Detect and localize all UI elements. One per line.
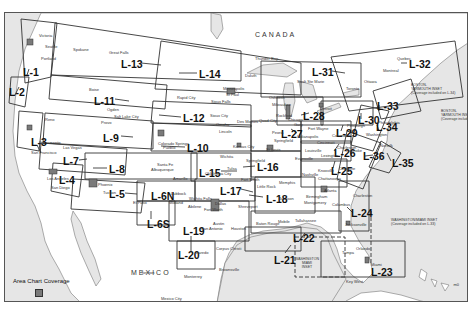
city-label: Mexico City — [161, 297, 182, 301]
city-label: Brownsville — [219, 268, 239, 272]
chart-label-l-33[interactable]: L-33 — [377, 101, 399, 112]
city-label: Peoria — [272, 131, 284, 135]
city-label: Lexington — [321, 154, 338, 158]
city-label: Oshkosh — [269, 96, 285, 100]
city-label: Montreal — [383, 69, 399, 73]
chart-label-l-7[interactable]: L-7 — [63, 156, 79, 167]
city-label: Little Rock — [257, 185, 276, 189]
chart-label-l-9[interactable]: L-9 — [103, 133, 119, 144]
city-label: Wichita — [220, 155, 233, 159]
city-label: Nashville — [302, 173, 318, 177]
city-label: Sioux City — [210, 114, 228, 118]
area-chart-sanfrancisco — [27, 125, 32, 130]
legend-area-chart-swatch — [35, 289, 43, 297]
boston-yarmouth-inset-note: BOSTON- YARMOUTH INSET (Coverage include… — [441, 109, 468, 121]
chart-label-l-2[interactable]: L-2 — [9, 87, 25, 98]
city-label: Laredo — [196, 251, 208, 255]
city-label: Louisville — [305, 149, 321, 153]
city-label: Las Vegas — [63, 146, 82, 150]
chart-label-l-6s[interactable]: L-6S — [147, 219, 170, 230]
city-label: Charleston — [337, 146, 356, 150]
chart-label-l-13[interactable]: L-13 — [121, 59, 143, 70]
city-label: Norfolk — [380, 144, 393, 148]
city-label: Evansville — [295, 157, 313, 161]
chart-index-map[interactable]: CANADA MEXICO L-1L-2L-3L-4L-5L-6NL-6SL-7… — [4, 12, 468, 302]
city-label: Fort Wayne — [308, 127, 329, 131]
chart-label-l-22[interactable]: L-22 — [293, 233, 315, 244]
chart-label-l-16[interactable]: L-16 — [257, 162, 279, 173]
city-label: Milwaukee — [272, 103, 291, 107]
chart-label-l-24[interactable]: L-24 — [351, 208, 373, 219]
page-number: m0 — [453, 282, 459, 287]
city-label: Sacramento — [39, 141, 61, 145]
city-label: Lubbock — [171, 192, 186, 196]
city-label: Oklahoma City — [205, 172, 231, 176]
city-label: Quad City — [259, 119, 277, 123]
city-label: Salt Lake City — [114, 115, 139, 119]
city-label: El Paso — [133, 201, 147, 205]
city-label: Ogden — [107, 108, 119, 112]
washington-miami-inset-label: WASHINGTON MIAMI INSET — [295, 257, 319, 269]
city-label: Columbus — [332, 203, 350, 207]
city-label: Sioux Falls — [211, 100, 231, 104]
city-label: Tallahassee — [295, 219, 316, 223]
chart-label-l-28[interactable]: L-28 — [303, 111, 325, 122]
legend-label: Area Chart Coverage — [13, 278, 70, 284]
city-label: San Antonio — [201, 227, 223, 231]
city-label: Lincoln — [219, 130, 232, 134]
chart-label-l-11[interactable]: L-11 — [94, 96, 115, 107]
city-label: Baton Rouge — [256, 222, 279, 226]
chart-label-l-14[interactable]: L-14 — [199, 69, 221, 80]
city-label: Corpus Christi — [216, 247, 241, 251]
city-label: Great Falls — [109, 51, 129, 55]
city-label: Des Moines — [237, 120, 258, 124]
city-label: Torreon — [141, 271, 155, 275]
chart-label-l-21[interactable]: L-21 — [274, 255, 296, 266]
city-label: Gary — [294, 123, 303, 127]
city-label: Mobile — [278, 220, 290, 224]
area-chart-losangeles — [49, 169, 57, 174]
city-label: Rapid City — [177, 96, 195, 100]
city-label: Tucson — [103, 191, 116, 195]
city-label: San Francisco — [31, 151, 57, 155]
city-label: St Louis — [266, 148, 280, 152]
city-label: Spokane — [73, 48, 89, 52]
city-label: Wichita Falls — [189, 197, 212, 201]
city-label: Chattanooga — [318, 177, 341, 181]
boston-inset-note: BOSTON- YARMOUTH INSET (Coverage include… — [411, 83, 455, 95]
bahamas — [419, 269, 449, 291]
city-label: Memphis — [279, 181, 295, 185]
chart-label-l-32[interactable]: L-32 — [409, 59, 431, 70]
city-label: Cincinnati — [317, 141, 335, 145]
city-label: Fort Smith — [241, 178, 259, 182]
chart-label-l-8[interactable]: L-8 — [109, 164, 125, 175]
city-label: Abilene — [188, 205, 201, 209]
city-label: Atlanta — [324, 189, 336, 193]
chart-label-l-12[interactable]: L-12 — [183, 113, 205, 124]
city-label: Springfield — [246, 159, 265, 163]
area-chart-seattle — [27, 39, 33, 45]
chart-label-l-23[interactable]: L-23 — [371, 267, 393, 278]
city-label: Fort Worth — [204, 208, 223, 212]
chart-label-l-1[interactable]: L-1 — [23, 67, 39, 78]
city-label: Thunder Bay — [255, 57, 278, 61]
area-chart-miami — [365, 257, 369, 263]
city-label: Victoria — [39, 34, 52, 38]
city-label: Amarillo — [173, 177, 187, 181]
city-label: Toronto — [346, 87, 359, 91]
area-chart-denver — [158, 130, 164, 136]
city-label: Tampa — [342, 251, 354, 255]
chart-label-l-31[interactable]: L-31 — [312, 67, 334, 78]
city-label: Los Angeles — [47, 177, 69, 181]
city-label: Pittsburgh — [347, 124, 365, 128]
city-label: Washington — [366, 133, 387, 137]
city-label: Midland — [169, 201, 183, 205]
chart-label-l-35[interactable]: L-35 — [392, 158, 414, 169]
city-label: Sault Ste Marie — [297, 80, 324, 84]
chart-label-l-10[interactable]: L-10 — [187, 143, 209, 154]
chart-label-l-36[interactable]: L-36 — [363, 151, 385, 162]
city-label: Columbus — [332, 134, 350, 138]
city-label: Kansas City — [233, 145, 254, 149]
chart-label-l-17[interactable]: L-17 — [220, 186, 242, 197]
city-label: Pueblo — [163, 146, 175, 150]
